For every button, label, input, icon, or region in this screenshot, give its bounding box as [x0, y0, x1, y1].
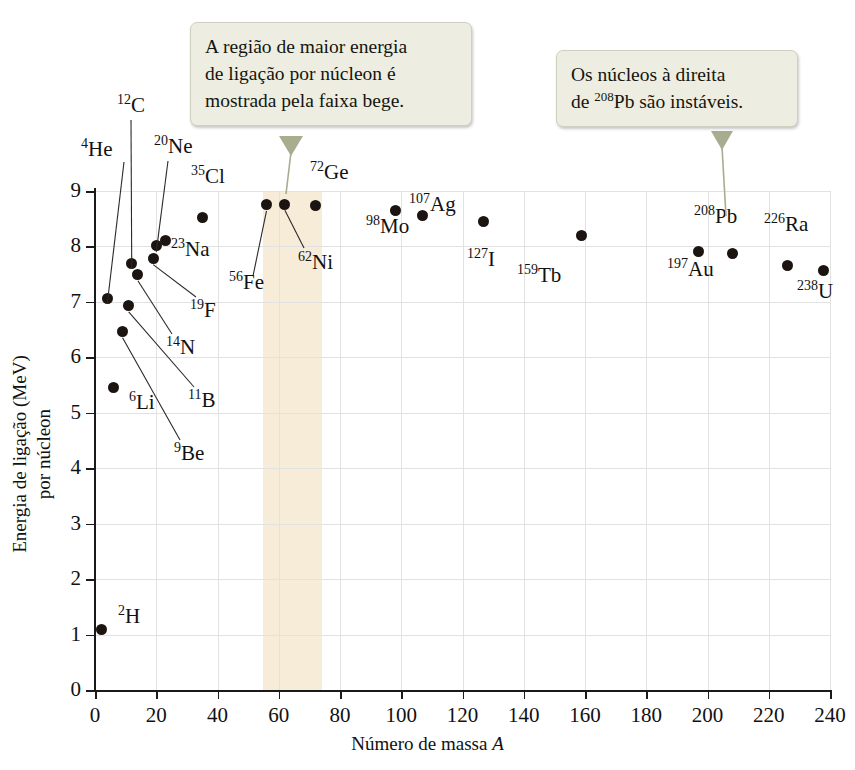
y-axis-title-line2: por núcleon [32, 254, 56, 654]
y-tick-mark [86, 246, 95, 248]
callout-1-line-3: mostrada pela faixa bege. [205, 87, 457, 114]
callout-2-line-1: Os núcleos à direita [571, 61, 783, 88]
nuclide-mass-number: 226 [764, 211, 785, 226]
nuclide-label-pb: 208Pb [694, 206, 737, 227]
y-tick-mark [86, 690, 95, 692]
y-tick-label: 7 [57, 291, 81, 312]
x-tick-mark [401, 690, 403, 699]
nuclide-mass-number: 127 [467, 246, 488, 261]
nuclide-label-c: 12C [117, 95, 145, 116]
nuclide-mass-number: 9 [174, 440, 181, 455]
nuclide-symbol: Ge [324, 160, 349, 184]
data-point-li [108, 382, 119, 393]
nuclide-symbol: C [131, 93, 145, 117]
data-point-be [117, 326, 128, 337]
nuclide-mass-number: 19 [190, 297, 204, 312]
callout-pointer-1-line [286, 152, 291, 194]
x-tick-label: 240 [800, 705, 855, 726]
nuclide-mass-number: 11 [188, 387, 201, 402]
nuclide-label-fe: 56Fe [229, 272, 264, 293]
plot-area [95, 191, 830, 690]
y-tick-label: 5 [57, 402, 81, 423]
data-point-c [126, 258, 137, 269]
nuclide-mass-number: 62 [298, 249, 312, 264]
x-axis-title: Número de massa A [0, 733, 855, 755]
y-tick-mark [86, 357, 95, 359]
x-tick-label: 40 [188, 705, 248, 726]
nuclide-label-na: 23Na [171, 239, 210, 260]
nuclide-mass-number: 107 [409, 191, 430, 206]
nuclide-symbol: Ag [430, 192, 456, 216]
nuclide-label-i: 127I [467, 249, 495, 270]
nuclide-label-mo: 98Mo [366, 216, 409, 237]
x-tick-label: 60 [249, 705, 309, 726]
x-tick-mark [708, 690, 710, 699]
data-point-au [693, 246, 704, 257]
x-tick-mark [646, 690, 648, 699]
x-tick-mark [340, 690, 342, 699]
x-axis-title-text: Número de massa [351, 733, 492, 754]
callout-2-mass-number: 208 [594, 89, 614, 104]
nuclide-mass-number: 72 [310, 159, 324, 174]
data-point-ra [782, 260, 793, 271]
nuclide-label-au: 197Au [667, 259, 714, 280]
nuclide-mass-number: 197 [667, 256, 688, 271]
nuclide-label-tb: 159Tb [517, 265, 561, 286]
nuclide-label-ne: 20Ne [154, 136, 193, 157]
x-tick-mark [95, 690, 97, 699]
nuclide-mass-number: 35 [191, 163, 205, 178]
nuclide-label-be: 9Be [174, 443, 204, 464]
x-axis-title-symbol: A [492, 733, 504, 754]
nuclide-mass-number: 20 [154, 133, 168, 148]
nuclide-symbol: H [125, 604, 140, 628]
x-tick-mark [463, 690, 465, 699]
data-point-f [148, 253, 159, 264]
gridline-vertical [830, 191, 831, 690]
y-tick-label: 6 [57, 346, 81, 367]
nuclide-symbol: Fe [243, 270, 264, 294]
nuclide-mass-number: 6 [129, 389, 136, 404]
data-point-pb [727, 248, 738, 259]
nuclide-symbol: Pb [715, 204, 737, 228]
nuclide-symbol: He [88, 137, 113, 161]
x-tick-mark [769, 690, 771, 699]
data-point-i [478, 216, 489, 227]
nuclide-symbol: F [204, 298, 216, 322]
gridline-vertical [769, 191, 770, 690]
nuclide-symbol: Cl [205, 164, 225, 188]
gridline-horizontal [95, 468, 830, 469]
nuclide-label-n: 14N [166, 337, 195, 358]
y-axis-title-line1: Energia de ligação (MeV) [8, 254, 32, 654]
gridline-vertical [156, 191, 157, 690]
data-point-n [132, 269, 143, 280]
gridline-horizontal [95, 635, 830, 636]
nuclide-mass-number: 238 [797, 278, 818, 293]
nuclide-symbol: Au [688, 257, 714, 281]
x-tick-label: 140 [494, 705, 554, 726]
x-tick-label: 80 [310, 705, 370, 726]
data-point-h [96, 624, 107, 635]
y-tick-mark [86, 302, 95, 304]
nuclide-label-cl: 35Cl [191, 166, 225, 187]
x-tick-label: 180 [616, 705, 676, 726]
gridline-vertical [463, 191, 464, 690]
nuclide-label-ag: 107Ag [409, 194, 456, 215]
nuclide-symbol: Na [185, 237, 210, 261]
binding-energy-figure: 0123456789 02040608010012014016018020022… [0, 0, 855, 770]
gridline-horizontal [95, 524, 830, 525]
data-point-he [102, 293, 113, 304]
nuclide-label-h: 2H [118, 606, 140, 627]
callout-1-line-1: A região de maior energia [205, 33, 457, 60]
nuclide-symbol: I [488, 247, 495, 271]
nuclide-mass-number: 23 [171, 236, 185, 251]
nuclide-symbol: B [201, 388, 215, 412]
gridline-vertical [585, 191, 586, 690]
x-tick-label: 120 [433, 705, 493, 726]
nuclide-mass-number: 98 [366, 213, 380, 228]
nuclide-mass-number: 2 [118, 603, 125, 618]
nuclide-label-f: 19F [190, 300, 216, 321]
x-tick-label: 100 [371, 705, 431, 726]
y-tick-label: 2 [57, 568, 81, 589]
y-axis [94, 188, 96, 692]
gridline-vertical [646, 191, 647, 690]
